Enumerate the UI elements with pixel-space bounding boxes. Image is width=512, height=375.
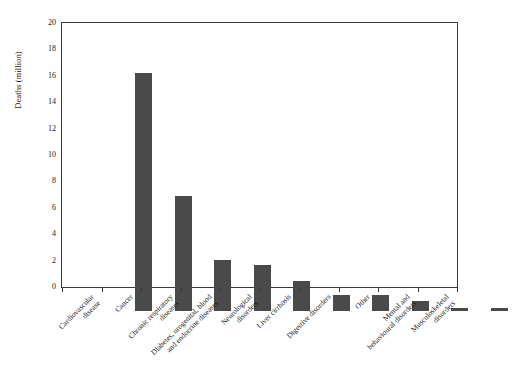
bar — [491, 308, 508, 311]
x-axis-label-line: Liver cirrhosis — [255, 292, 293, 330]
x-axis-label-line: Other — [353, 292, 372, 311]
x-axis-label-line: Cancer — [113, 292, 135, 314]
